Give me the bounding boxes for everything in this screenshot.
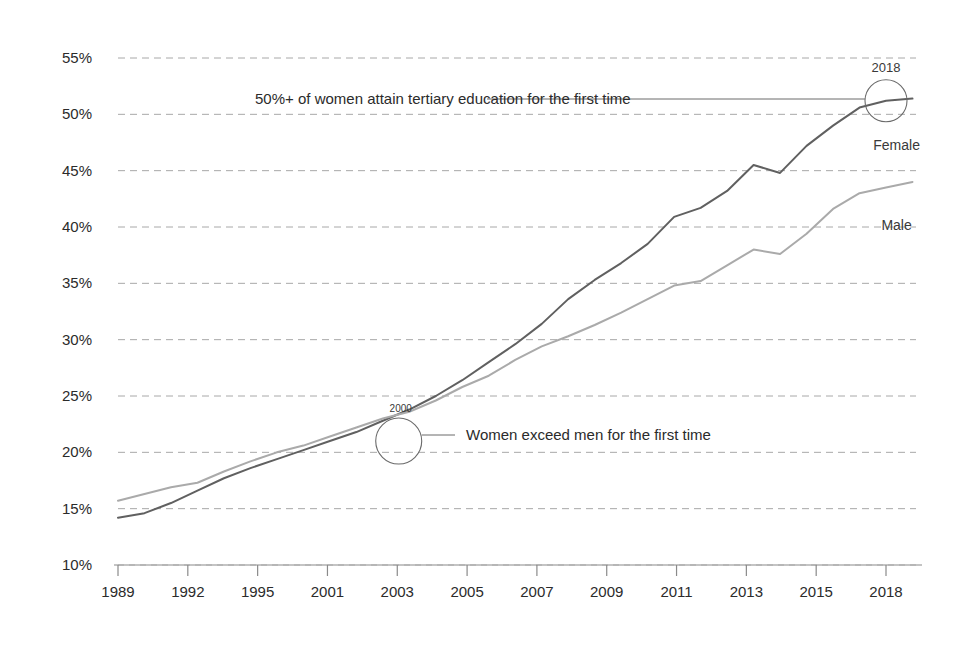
y-axis-tick-label: 25% xyxy=(62,387,92,404)
annotation-year-2000: 2000 xyxy=(390,403,413,414)
x-axis-tick-label: 1992 xyxy=(171,583,204,600)
x-axis-tick-label: 2003 xyxy=(381,583,414,600)
y-axis-tick-label: 30% xyxy=(62,331,92,348)
y-axis-tick-label: 55% xyxy=(62,49,92,66)
x-axis-tick-label: 2011 xyxy=(660,583,692,600)
y-axis-tick-label: 10% xyxy=(62,556,92,573)
x-axis-tick-label: 1989 xyxy=(101,583,134,600)
annotation-year-2018: 2018 xyxy=(872,60,901,75)
y-axis-tick-label: 50% xyxy=(62,105,92,122)
x-axis-tick-label: 2009 xyxy=(590,583,623,600)
x-axis-tick-label: 1995 xyxy=(241,583,274,600)
x-axis-tick-label: 2013 xyxy=(730,583,763,600)
y-axis-tick-label: 40% xyxy=(62,218,92,235)
x-axis-tick-label: 2007 xyxy=(520,583,553,600)
x-axis-tick-label: 2001 xyxy=(311,583,344,600)
x-axis-tick-label: 2005 xyxy=(450,583,483,600)
annotation-label-crossover: Women exceed men for the first time xyxy=(466,426,711,443)
line-chart: 10%15%20%25%30%35%40%45%50%55% 198919921… xyxy=(0,0,960,652)
x-axis-tick-label: 2018 xyxy=(869,583,902,600)
y-axis-tick-label: 20% xyxy=(62,443,92,460)
x-axis-tick-label: 2015 xyxy=(799,583,832,600)
series-label-female: Female xyxy=(873,137,920,153)
annotation-label-fifty-percent: 50%+ of women attain tertiary education … xyxy=(255,90,631,107)
chart-canvas: 10%15%20%25%30%35%40%45%50%55% 198919921… xyxy=(0,0,960,652)
y-axis-tick-label: 35% xyxy=(62,274,92,291)
series-label-male: Male xyxy=(881,217,912,233)
y-axis-tick-label: 45% xyxy=(62,162,92,179)
y-axis-tick-label: 15% xyxy=(62,500,92,517)
